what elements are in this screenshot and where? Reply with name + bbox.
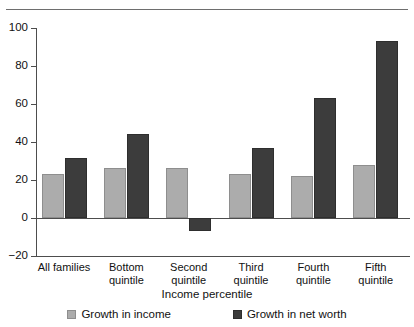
chart-legend: Growth in income Growth in net worth [0, 308, 414, 320]
bar-networth-2[interactable] [189, 218, 211, 231]
y-tick-label-0: 0 [0, 212, 28, 223]
y-tick-100 [31, 28, 36, 29]
bar-income-1[interactable] [104, 168, 126, 218]
category-label-1: Bottom quintile [95, 261, 157, 286]
zero-baseline [36, 218, 410, 219]
category-label-4: Fourth quintile [282, 261, 344, 286]
bar-networth-5[interactable] [376, 41, 398, 218]
x-axis-line [36, 256, 410, 257]
y-tick-60 [31, 104, 36, 105]
y-tick-label--20: −20 [0, 250, 28, 261]
legend-label-networth: Growth in net worth [247, 308, 347, 320]
dark-gray-swatch-icon [233, 310, 242, 319]
y-axis-line [36, 28, 37, 256]
legend-item-networth[interactable]: Growth in net worth [233, 308, 347, 320]
y-tick-0 [31, 218, 36, 219]
legend-label-income: Growth in income [81, 308, 170, 320]
y-tick-label-20: 20 [0, 174, 28, 185]
y-tick-80 [31, 66, 36, 67]
bar-income-5[interactable] [353, 165, 375, 218]
category-label-3: Third quintile [220, 261, 282, 286]
legend-item-income[interactable]: Growth in income [67, 308, 170, 320]
header-divider [6, 9, 408, 10]
y-tick-20 [31, 180, 36, 181]
category-label-0: All families [33, 261, 95, 274]
light-gray-swatch-icon [67, 310, 76, 319]
bar-income-3[interactable] [229, 174, 251, 218]
y-tick--20 [31, 256, 36, 257]
chart-figure: −20020406080100 All familiesBottom quint… [0, 0, 414, 327]
bar-networth-1[interactable] [127, 134, 149, 218]
bar-income-4[interactable] [291, 176, 313, 218]
x-axis-title: Income percentile [0, 288, 414, 300]
y-tick-label-60: 60 [0, 98, 28, 109]
category-label-5: Fifth quintile [345, 261, 407, 286]
category-label-2: Second quintile [158, 261, 220, 286]
bar-networth-3[interactable] [252, 148, 274, 218]
y-tick-label-80: 80 [0, 60, 28, 71]
y-tick-label-40: 40 [0, 136, 28, 147]
y-tick-label-100: 100 [0, 22, 28, 33]
bar-networth-4[interactable] [314, 98, 336, 218]
bar-income-2[interactable] [166, 168, 188, 218]
bar-networth-0[interactable] [65, 158, 87, 218]
bar-income-0[interactable] [42, 174, 64, 218]
y-tick-40 [31, 142, 36, 143]
